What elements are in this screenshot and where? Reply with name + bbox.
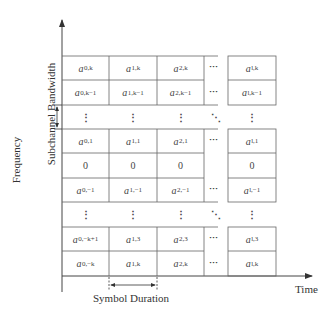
ddots: ⋱ [204, 105, 228, 129]
cell-a-l-1: al,1 [228, 129, 276, 153]
cell-a-1-k-minus-1: a1,k−1 [109, 80, 157, 105]
frequency-axis-label: Frequency [10, 130, 22, 190]
cell-a-0-minus-1: a0,−1 [62, 178, 109, 202]
cell-zero: 0 [228, 153, 276, 178]
cell-a-1-k-bottom: a1,k [109, 251, 157, 276]
vdots: ⋮ [62, 202, 109, 227]
cell-a-2-3: a2,3 [157, 227, 204, 251]
hdots: ··· [209, 232, 218, 242]
cell-a-0-minus-k-plus-1: a0,−k+1 [62, 227, 109, 251]
cell-a-1-minus-1: a1,−1 [109, 178, 157, 202]
vdots: ⋮ [157, 202, 204, 227]
cell-a-0-minus-k: a0,−k [62, 251, 109, 276]
vdots: ⋮ [62, 105, 109, 129]
cell-a-l-k-minus-1: al,k−1 [228, 80, 276, 105]
cell-zero: 0 [157, 153, 204, 178]
cell-zero: 0 [62, 153, 109, 178]
cell-a-l-k: al,k [228, 56, 276, 80]
cell-a-1-1: a1,1 [109, 129, 157, 153]
symbol-duration-dimension [109, 277, 157, 291]
symbol-duration-label: Symbol Duration [93, 292, 169, 304]
vdots: ⋮ [157, 105, 204, 129]
cell-a-l-k-bottom: al,k [228, 251, 276, 276]
time-axis-label: Time [295, 283, 318, 295]
ddots: ⋱ [204, 202, 228, 227]
cell-a-0-k: a0,k [62, 56, 109, 80]
cell-a-0-1: a0,1 [62, 129, 109, 153]
subchannel-bandwidth-label: Subchannel Bandwidth [45, 54, 57, 174]
hdots: ··· [209, 183, 218, 193]
hdots: ··· [209, 86, 218, 96]
vdots: ⋮ [109, 105, 157, 129]
cell-a-2-k-bottom: a2,k [157, 251, 204, 276]
cell-a-2-minus-1: a2,−1 [157, 178, 204, 202]
cell-a-2-k: a2,k [157, 56, 204, 80]
cell-a-1-k: a1,k [109, 56, 157, 80]
vdots: ⋮ [228, 105, 276, 129]
hdots: ··· [209, 257, 218, 267]
cell-a-0-k-minus-1: a0,k−1 [62, 80, 109, 105]
vdots: ⋮ [109, 202, 157, 227]
cell-a-l-minus-1: al,−1 [228, 178, 276, 202]
cell-a-2-k-minus-1: a2,k−1 [157, 80, 204, 105]
cell-a-2-1: a2,1 [157, 129, 204, 153]
cell-zero: 0 [109, 153, 157, 178]
cell-a-1-3: a1,3 [109, 227, 157, 251]
hdots: ··· [209, 61, 218, 71]
vdots: ⋮ [228, 202, 276, 227]
hdots: ··· [209, 134, 218, 144]
cell-a-l-3: al,3 [228, 227, 276, 251]
